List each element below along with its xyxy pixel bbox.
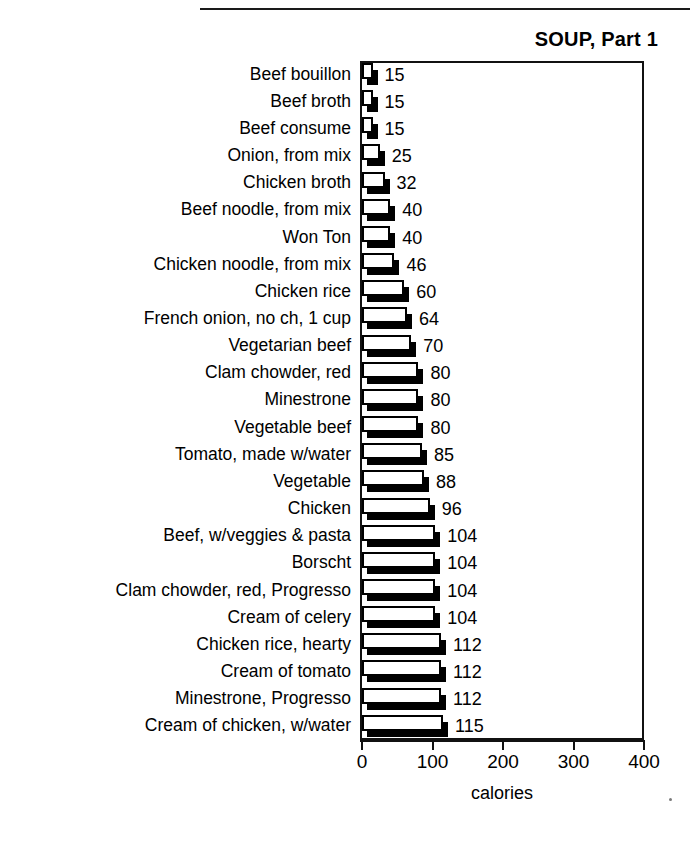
bar-value-label: 46 — [406, 256, 426, 274]
bar-row: Cream of celery104 — [0, 604, 698, 631]
bar — [362, 606, 441, 629]
bar-category-label: Tomato, made w/water — [175, 446, 351, 464]
bar-row: Cream of tomato112 — [0, 658, 698, 685]
x-axis-tick-label: 300 — [558, 752, 590, 771]
bar-face — [362, 362, 418, 378]
bar-value-label: 104 — [447, 609, 477, 627]
bar-value-label: 104 — [447, 527, 477, 545]
bar-face — [362, 335, 411, 351]
bar-row: Beef bouillon15 — [0, 61, 698, 88]
bar-row: French onion, no ch, 1 cup64 — [0, 305, 698, 332]
bar-row: Beef consume15 — [0, 115, 698, 142]
bar-category-label: Chicken rice — [255, 283, 351, 301]
bar-face — [362, 280, 404, 296]
bar-value-label: 15 — [385, 93, 405, 111]
bar-row: Chicken rice, hearty112 — [0, 631, 698, 658]
x-axis-tick-label: 400 — [628, 752, 660, 771]
bar-value-label: 70 — [423, 337, 443, 355]
bar-value-label: 85 — [434, 446, 454, 464]
bar-category-label: French onion, no ch, 1 cup — [144, 310, 351, 328]
bar-row: Clam chowder, red80 — [0, 360, 698, 387]
bar — [362, 362, 424, 385]
bar — [362, 63, 379, 86]
bar-category-label: Beef noodle, from mix — [181, 202, 351, 220]
bar-face — [362, 606, 435, 622]
bar-value-label: 15 — [385, 66, 405, 84]
bar-face — [362, 253, 394, 269]
bar — [362, 307, 413, 330]
bar — [362, 552, 441, 575]
bar-row: Tomato, made w/water85 — [0, 441, 698, 468]
bar — [362, 253, 400, 276]
bar — [362, 117, 379, 140]
bar — [362, 144, 386, 167]
bar-category-label: Beef bouillon — [250, 66, 351, 84]
bar-row: Vegetable beef80 — [0, 414, 698, 441]
bar-value-label: 88 — [436, 473, 456, 491]
bar-category-label: Cream of tomato — [221, 663, 351, 681]
bar-category-label: Chicken — [288, 500, 351, 518]
bar-category-label: Chicken noodle, from mix — [154, 256, 351, 274]
bar-face — [362, 144, 380, 160]
bar-category-label: Chicken broth — [243, 174, 351, 192]
bar-row: Beef noodle, from mix40 — [0, 197, 698, 224]
bar-value-label: 80 — [430, 364, 450, 382]
scan-artifact-dot — [669, 798, 672, 801]
bar-category-label: Clam chowder, red — [205, 365, 351, 383]
bar-category-label: Onion, from mix — [228, 147, 352, 165]
bar-face — [362, 416, 418, 432]
bar-row: Vegetable88 — [0, 468, 698, 495]
bar-value-label: 15 — [385, 120, 405, 138]
bar-face — [362, 633, 441, 649]
bar-category-label: Minestrone, Progresso — [175, 690, 351, 708]
bar-value-label: 112 — [453, 663, 482, 681]
bar-face — [362, 525, 435, 541]
bar — [362, 226, 396, 249]
bar — [362, 525, 441, 548]
bar-face — [362, 470, 424, 486]
bar-row: Won Ton40 — [0, 224, 698, 251]
bar — [362, 470, 430, 493]
bar-category-label: Beef broth — [270, 93, 351, 111]
bar-face — [362, 579, 435, 595]
bar-face — [362, 552, 435, 568]
bar-value-label: 64 — [419, 310, 439, 328]
bar — [362, 633, 447, 656]
x-axis-title: calories — [360, 783, 644, 804]
bar-face — [362, 443, 422, 459]
bar — [362, 660, 447, 683]
bar-row: Chicken broth32 — [0, 170, 698, 197]
bar-category-label: Beef consume — [239, 120, 351, 138]
bar-face — [362, 63, 373, 79]
bar-category-label: Borscht — [292, 555, 351, 573]
bar-row: Chicken rice60 — [0, 278, 698, 305]
bar-value-label: 40 — [402, 201, 422, 219]
x-axis-tick — [573, 740, 575, 750]
bar — [362, 90, 379, 113]
bar-category-label: Chicken rice, hearty — [196, 636, 351, 654]
bar — [362, 335, 417, 358]
bar-face — [362, 117, 373, 133]
bar-face — [362, 660, 441, 676]
bar-face — [362, 389, 418, 405]
bar-row: Clam chowder, red, Progresso104 — [0, 577, 698, 604]
bar-face — [362, 498, 430, 514]
bar-category-label: Vegetable beef — [234, 419, 351, 437]
chart-title: SOUP, Part 1 — [0, 28, 658, 51]
bar-value-label: 115 — [455, 717, 484, 735]
bar-value-label: 32 — [397, 174, 417, 192]
bar-category-label: Beef, w/veggies & pasta — [163, 527, 351, 545]
bar — [362, 688, 447, 711]
bar-face — [362, 226, 390, 242]
x-axis-tick-label: 0 — [357, 752, 368, 771]
bar-row: Beef broth15 — [0, 88, 698, 115]
bar-value-label: 104 — [447, 554, 477, 572]
bar-category-label: Minestrone — [264, 392, 351, 410]
bar-category-label: Cream of chicken, w/water — [145, 718, 351, 736]
bar-face — [362, 172, 385, 188]
bar-face — [362, 90, 373, 106]
bar — [362, 389, 424, 412]
bar-face — [362, 199, 390, 215]
bar-rows-container: Beef bouillon15Beef broth15Beef consume1… — [0, 61, 698, 740]
bar-row: Cream of chicken, w/water115 — [0, 713, 698, 740]
